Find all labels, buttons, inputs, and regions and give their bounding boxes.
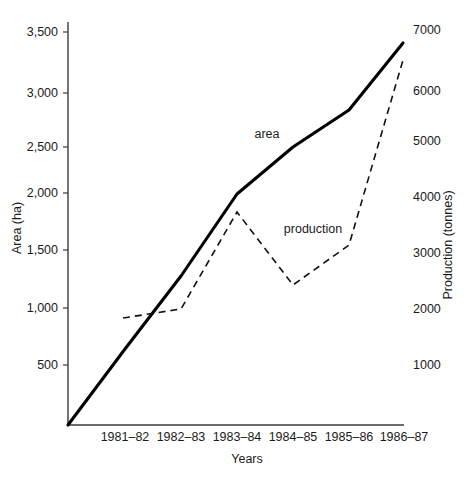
right-tick-label-2000: 2000 <box>413 302 441 316</box>
right-tick-label-6000: 6000 <box>413 84 441 98</box>
left-tick-label-500: 500 <box>37 358 58 372</box>
left-tick-label-2000: 2,000 <box>27 186 58 200</box>
left-tick-label-3500: 3,500 <box>27 25 58 39</box>
right-tick-label-5000: 5000 <box>413 134 441 148</box>
left-tick-label-2500: 2,500 <box>27 140 58 154</box>
x-axis-title: Years <box>231 452 263 466</box>
right-tick-label-1000: 1000 <box>413 358 441 372</box>
x-tick-label-1985-86: 1985–86 <box>325 430 374 444</box>
left-tick-label-1500: 1,500 <box>27 243 58 257</box>
left-tick-label-3000: 3,000 <box>27 86 58 100</box>
series-line-area <box>68 43 403 425</box>
dual-axis-line-chart: 500 1,000 1,500 2,000 2,500 3,000 3,500 … <box>0 0 465 477</box>
x-tick-label-1984-85: 1984–85 <box>269 430 318 444</box>
right-tick-label-3000: 3000 <box>413 246 441 260</box>
right-tick-label-4000: 4000 <box>413 190 441 204</box>
x-tick-label-1982-83: 1982–83 <box>157 430 206 444</box>
chart-figure: 500 1,000 1,500 2,000 2,500 3,000 3,500 … <box>0 0 465 477</box>
series-annotation-area: area <box>254 127 279 141</box>
left-tick-label-1000: 1,000 <box>27 301 58 315</box>
series-line-production <box>123 60 403 318</box>
series-annotation-production: production <box>284 222 342 236</box>
right-axis-title: Production (tonnes) <box>441 190 455 299</box>
x-tick-label-1983-84: 1983–84 <box>213 430 262 444</box>
x-tick-label-1981-82: 1981–82 <box>101 430 150 444</box>
left-axis-ticks <box>63 32 68 365</box>
left-axis-title: Area (ha) <box>10 202 24 254</box>
x-tick-label-1986-87: 1986–87 <box>380 430 429 444</box>
right-tick-label-7000: 7000 <box>413 23 441 37</box>
